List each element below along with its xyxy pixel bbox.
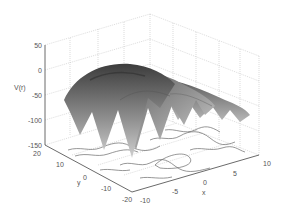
surface xyxy=(64,64,250,158)
surface-plot: 50 0 -50 -100 -150 V(r) 20 10 0 -10 -20 … xyxy=(0,0,281,213)
x-tick-minus10: -10 xyxy=(140,197,150,204)
y-axis-label: y xyxy=(77,179,81,187)
x-tick-10: 10 xyxy=(263,160,271,167)
x-tick-labels: -10 -5 0 5 10 xyxy=(140,160,271,204)
x-axis-line xyxy=(132,155,259,192)
z-tick-minus50: -50 xyxy=(32,92,42,99)
floor-contours xyxy=(68,127,245,178)
y-tick-10: 10 xyxy=(56,161,64,168)
x-tick-0: 0 xyxy=(203,179,207,186)
z-tick-0: 0 xyxy=(38,67,42,74)
y-tick-minus10: -10 xyxy=(101,185,111,192)
z-tick-labels: 50 0 -50 -100 -150 xyxy=(28,42,42,149)
y-tick-20: 20 xyxy=(33,150,41,157)
z-axis-label: V(r) xyxy=(14,84,26,92)
y-axis-line xyxy=(45,145,132,192)
z-tick-50: 50 xyxy=(34,42,42,49)
z-tick-minus150: -150 xyxy=(28,142,42,149)
y-tick-labels: 20 10 0 -10 -20 xyxy=(33,150,132,203)
x-tick-minus5: -5 xyxy=(172,188,178,195)
z-tick-minus100: -100 xyxy=(28,117,42,124)
x-axis-label: x xyxy=(202,189,206,196)
y-tick-minus20: -20 xyxy=(122,196,132,203)
y-tick-0: 0 xyxy=(83,174,87,181)
x-tick-5: 5 xyxy=(233,170,237,177)
